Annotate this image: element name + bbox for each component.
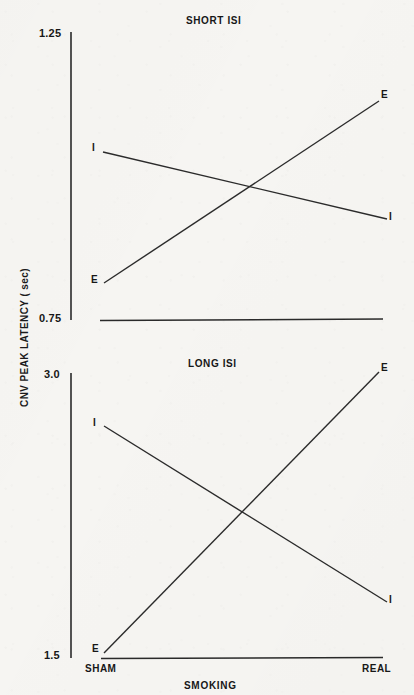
long-isi-series-e-end-label: E — [381, 362, 388, 373]
long-isi-series-i-end-label: I — [389, 594, 392, 605]
short-isi-series-i-start-label: I — [92, 142, 95, 153]
long-isi-ytick-top: 3.0 — [44, 368, 60, 380]
short-isi-series-i-end-label: I — [389, 211, 392, 222]
long-isi-series-i-line — [104, 426, 387, 602]
long-isi-x-axis — [101, 658, 383, 659]
panel-long-isi-title: LONG ISI — [188, 358, 237, 369]
short-isi-ytick-top: 1.25 — [39, 27, 61, 39]
short-isi-x-axis — [100, 319, 383, 321]
panel-long-isi — [0, 340, 414, 680]
cnv-peak-latency-figure: CNV PEAK LATENCY ( sec) SHORT ISI 1.25 0… — [0, 0, 414, 695]
short-isi-series-e-line — [104, 101, 379, 283]
x-category-label-sham: SHAM — [85, 663, 116, 674]
panel-short-isi-title: SHORT ISI — [186, 15, 241, 26]
short-isi-series-e-start-label: E — [91, 274, 98, 285]
short-isi-series-e-end-label: E — [381, 89, 388, 100]
long-isi-ytick-bottom: 1.5 — [44, 649, 60, 661]
long-isi-series-e-line — [104, 372, 379, 653]
long-isi-series-i-start-label: I — [93, 417, 96, 428]
x-axis-title: SMOKING — [184, 680, 237, 691]
panel-short-isi — [0, 0, 414, 340]
short-isi-ytick-bottom: 0.75 — [39, 312, 61, 324]
short-isi-series-i-line — [103, 152, 387, 219]
long-isi-series-e-start-label: E — [92, 643, 99, 654]
x-category-label-real: REAL — [362, 663, 391, 674]
